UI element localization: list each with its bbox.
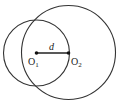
circles-diagram: d O1 O2 — [0, 0, 118, 102]
center-label-o1: O1 — [28, 56, 39, 69]
center-label-o2: O2 — [71, 56, 82, 69]
center-point-o1 — [35, 51, 39, 55]
center-point-o2 — [67, 51, 71, 55]
distance-label: d — [49, 41, 55, 52]
